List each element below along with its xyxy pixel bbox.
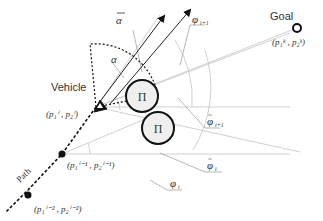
obstacle-1-label: Π: [138, 90, 147, 104]
vehicle-label: Vehicle: [51, 81, 86, 93]
svg-text:i+1: i+1: [215, 122, 224, 128]
svg-text:φ: φ: [192, 13, 198, 25]
svg-text:α: α: [116, 14, 122, 26]
label-leaders: [112, 25, 222, 190]
svg-text:φ: φ: [207, 115, 213, 127]
svg-text:i: i: [215, 166, 217, 172]
obstacle-2-label: Π: [154, 122, 163, 136]
prev1-coordinate: (p₁ⁱ⁻¹ , p₂ⁱ⁻¹): [67, 160, 114, 170]
phi-i-label: φ i: [170, 177, 180, 190]
alpha-bar-label: α: [116, 13, 125, 26]
path-point-i-2: [25, 192, 32, 199]
path-label: Path: [14, 166, 33, 185]
svg-text:i+1: i+1: [200, 20, 209, 26]
goal-marker: [293, 24, 301, 32]
goal-label: Goal: [270, 10, 293, 22]
svg-text:i: i: [178, 184, 180, 190]
diagram-canvas: Π Π Vehicle Goal Path α α φ i+1 ~ φ i+1 …: [0, 0, 323, 221]
alpha-label: α: [111, 53, 117, 65]
obstacle-2: Π: [142, 112, 174, 144]
phi-tilde-i-plus-1-label: ~ φ i+1: [207, 111, 224, 128]
phi-i-plus-1-label: φ i+1: [192, 13, 209, 26]
obstacle-1: Π: [126, 80, 158, 112]
goal-coordinate: (p₁ᵏ , p₂ᵏ): [272, 37, 305, 47]
svg-text:φ: φ: [170, 177, 176, 189]
path-point-i-1: [59, 151, 66, 158]
construction-lines: [62, 15, 300, 154]
phi-tilde-i-label: ~ φ i: [207, 155, 217, 172]
prev2-coordinate: (p₁ⁱ⁻² , p₂ⁱ⁻²): [34, 204, 81, 214]
svg-text:φ: φ: [207, 159, 213, 171]
vehicle-coordinate: (p₁ⁱ , p₂ⁱ): [46, 109, 78, 119]
